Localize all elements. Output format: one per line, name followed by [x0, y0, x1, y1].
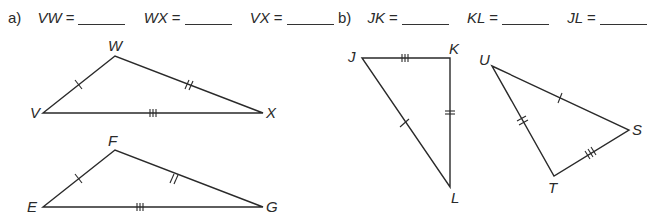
vertex-label-f: F	[108, 132, 118, 149]
vertex-label-t: T	[548, 179, 559, 196]
vertex-label-l: L	[451, 189, 459, 206]
vertex-label-k: K	[449, 40, 460, 57]
triangle-diagrams: W V X F E G J K L	[0, 0, 650, 215]
vertex-label-v: V	[30, 104, 42, 121]
triangle-jkl: J K L	[347, 40, 460, 206]
vertex-label-s: S	[632, 121, 642, 138]
triangle-ust: U S T	[479, 51, 642, 196]
vertex-label-w: W	[108, 37, 124, 54]
triangle-vwx: W V X	[30, 37, 277, 121]
vertex-label-u: U	[479, 51, 490, 68]
vertex-label-x: X	[265, 104, 277, 121]
vertex-label-g: G	[266, 198, 278, 215]
vertex-label-j: J	[347, 48, 356, 65]
triangle-efg: F E G	[27, 132, 278, 215]
vertex-label-e: E	[27, 198, 38, 215]
